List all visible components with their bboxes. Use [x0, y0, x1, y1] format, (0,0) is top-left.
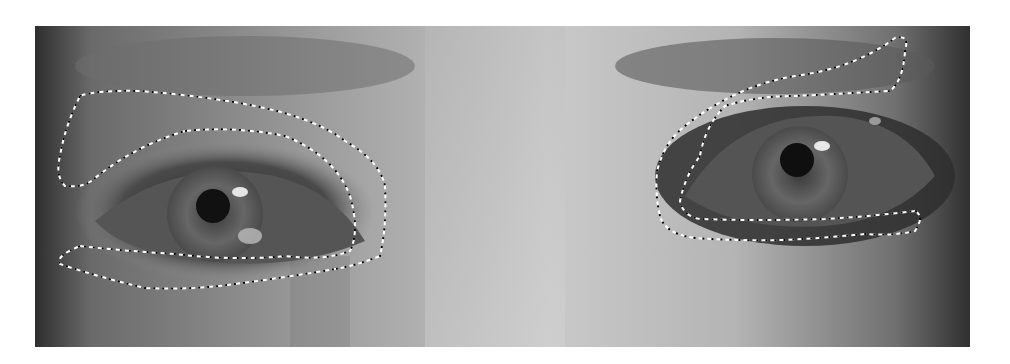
right-brow: [615, 38, 935, 94]
left-catchlight: [232, 187, 248, 197]
eyes-photo-svg: [35, 26, 970, 347]
right-catchlight: [814, 141, 830, 151]
nose-bridge: [425, 26, 565, 347]
left-pupil: [196, 189, 230, 223]
eyes-photo: [35, 26, 970, 347]
right-pupil: [780, 143, 814, 177]
left-brow: [75, 36, 415, 96]
right-highlight: [869, 117, 881, 125]
left-reflection: [238, 228, 262, 244]
